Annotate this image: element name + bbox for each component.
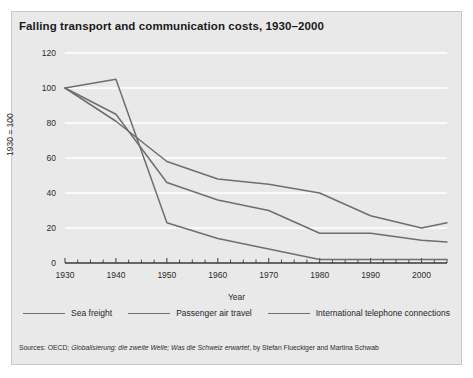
x-tick-label: 2000: [412, 270, 431, 278]
gridlines-group: [65, 53, 447, 228]
x-tick-label: 1980: [310, 270, 329, 278]
y-tick-label: 40: [47, 188, 57, 198]
x-tick-labels-group: 19301940195019601970198019902000: [56, 270, 432, 278]
x-tick-label: 1950: [157, 270, 176, 278]
plot-area: 020406080100120 193019401950196019701980…: [11, 38, 462, 278]
y-axis-title: 1930 = 100: [5, 36, 15, 156]
x-tick-label: 1930: [56, 270, 75, 278]
y-tick-label: 120: [42, 48, 56, 58]
x-axis-title: Year: [0, 292, 473, 302]
legend-label: International telephone connections: [316, 308, 450, 318]
legend-line-swatch: [268, 313, 310, 314]
source-title-italic: Globalisierung: die zweite Welle; Was di…: [71, 344, 249, 351]
legend-label: Passenger air travel: [176, 308, 252, 318]
source-suffix: , by Stefan Flueckiger and Martina Schwa…: [249, 344, 379, 351]
legend-label: Sea freight: [71, 308, 112, 318]
legend-item[interactable]: International telephone connections: [268, 308, 450, 318]
x-tick-label: 1990: [361, 270, 380, 278]
y-tick-label: 0: [51, 258, 56, 268]
line-chart-svg: 020406080100120 193019401950196019701980…: [11, 38, 462, 278]
chart-page: Falling transport and communication cost…: [0, 0, 473, 378]
legend-line-swatch: [128, 313, 170, 314]
y-tick-label: 20: [47, 223, 57, 233]
series-line: [65, 79, 447, 259]
y-tick-label: 100: [42, 83, 56, 93]
chart-legend: Sea freightPassenger air travelInternati…: [0, 308, 473, 318]
series-lines-group: [65, 79, 447, 259]
x-tick-label: 1960: [208, 270, 227, 278]
x-tick-label: 1970: [259, 270, 278, 278]
legend-item[interactable]: Sea freight: [23, 308, 112, 318]
source-note: Sources: OECD; Globalisierung: die zweit…: [19, 344, 459, 351]
x-tick-label: 1940: [106, 270, 125, 278]
legend-line-swatch: [23, 313, 65, 314]
page-title: Falling transport and communication cost…: [19, 20, 324, 32]
series-line: [65, 88, 447, 242]
source-prefix: Sources: OECD;: [19, 344, 71, 351]
y-tick-label: 60: [47, 153, 57, 163]
legend-item[interactable]: Passenger air travel: [128, 308, 252, 318]
y-tick-label: 80: [47, 118, 57, 128]
y-tick-labels-group: 020406080100120: [42, 48, 56, 268]
